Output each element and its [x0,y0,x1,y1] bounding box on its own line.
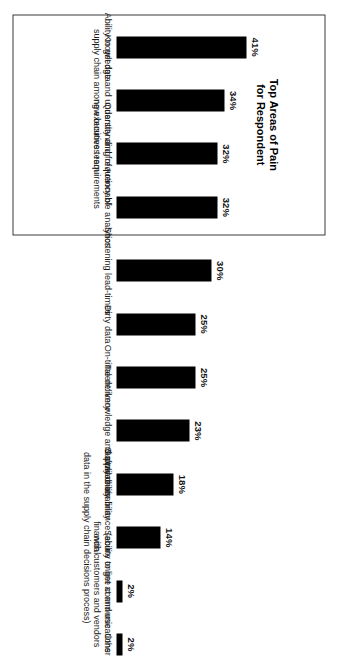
bar [116,196,217,218]
chart-area: Top Areas of Pain for Respondent 41%Abil… [0,0,337,671]
bar-group: 30%Shortening lead-times [0,244,337,297]
bar-group: 25%Dirty data [0,297,337,350]
bar-group: 41%Ability to get data [0,20,337,73]
bar [116,366,195,388]
bar-value-label: 41% [249,37,260,56]
bar-group: 32%Actionable analytics [0,180,337,233]
bar [116,526,160,548]
bar-value-label: 2% [125,584,136,598]
bar-group: 23%Talent: knowledge and availability [0,404,337,457]
bar [116,419,189,441]
bar [116,580,122,602]
bar-value-label: 32% [220,197,231,216]
bar [116,36,246,58]
rotated-chart-stage: Top Areas of Pain for Respondent 41%Abil… [0,0,337,671]
category-label: Other [102,544,113,671]
bar-value-label: 25% [198,314,209,333]
bar-value-label: 14% [163,528,174,547]
bar-group: 25%On-time delivery [0,350,337,403]
bar-group: 2%Secure online communications with cust… [0,564,337,617]
bar [116,259,211,281]
bar-group: 34%Knowledge and understanding of supply… [0,73,337,126]
bar-value-label: 32% [220,144,231,163]
bar [116,142,217,164]
bar [116,89,224,111]
bar [116,473,173,495]
bar-value-label: 30% [214,261,225,280]
bar-group: 2%Other [0,617,337,670]
bar-group: 18%Software usability [0,457,337,510]
bar-group: 14%Supply chain finance (ability to get … [0,511,337,564]
bar-value-label: 18% [176,474,187,493]
bar [116,633,122,655]
bar-value-label: 23% [192,421,203,440]
bar-group: 32%Quantity and frequency of new busines… [0,127,337,180]
bar-value-label: 2% [125,637,136,651]
bar-value-label: 25% [198,367,209,386]
bar [116,313,195,335]
bar-plot: 41%Ability to get data34%Knowledge and u… [0,0,337,671]
bar-value-label: 34% [227,90,238,109]
